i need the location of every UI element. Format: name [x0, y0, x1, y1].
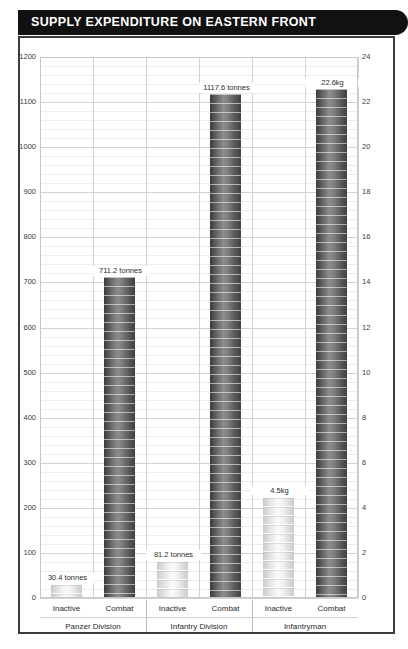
x-group-label: Panzer Division [40, 623, 146, 631]
bar-infantry-division-combat[interactable] [210, 94, 242, 598]
bar-panzer-division-inactive[interactable] [51, 584, 83, 598]
bar-infantryman-combat[interactable] [316, 89, 348, 598]
bar-fill [104, 277, 136, 598]
grid-line-vertical [358, 57, 359, 598]
y-tick-label-right: 6 [362, 459, 392, 467]
y-tick-label-right: 16 [362, 233, 392, 241]
x-tick-label: Combat [93, 605, 146, 613]
x-tick-label: Inactive [146, 605, 199, 613]
chart-figure: SUPPLY EXPENDITURE ON EASTERN FRONT 0100… [0, 0, 408, 649]
y-tick-label-right: 0 [362, 594, 392, 602]
bar-layer [40, 57, 358, 598]
y-tick-label-right: 20 [362, 143, 392, 151]
y-tick-label-left: 600 [2, 324, 36, 332]
bar-value-label: 711.2 tonnes [93, 266, 148, 276]
bar-infantry-division-inactive[interactable] [157, 561, 189, 598]
bar-infantryman-inactive[interactable] [263, 497, 295, 598]
x-group-rule [40, 617, 146, 618]
grid-line-major [40, 598, 358, 599]
y-tick-label-left: 400 [2, 414, 36, 422]
y-tick-label-left: 500 [2, 369, 36, 377]
bar-fill [157, 561, 189, 598]
plot-area [40, 57, 358, 598]
y-tick-label-right: 14 [362, 278, 392, 286]
y-tick-label-right: 8 [362, 414, 392, 422]
y-tick-label-left: 200 [2, 504, 36, 512]
chart-title-bar: SUPPLY EXPENDITURE ON EASTERN FRONT [18, 10, 408, 35]
page-title: SUPPLY EXPENDITURE ON EASTERN FRONT [31, 16, 316, 29]
y-tick-label-right: 12 [362, 324, 392, 332]
bar-value-label: 81.2 tonnes [146, 550, 201, 560]
y-tick-label-right: 4 [362, 504, 392, 512]
y-tick-label-right: 18 [362, 188, 392, 196]
bar-value-label: 30.4 tonnes [40, 573, 95, 583]
x-tick-label: Combat [199, 605, 252, 613]
bar-value-label: 22.6kg [305, 78, 360, 88]
x-tick-label: Combat [305, 605, 358, 613]
y-tick-label-left: 0 [2, 594, 36, 602]
bar-fill [316, 89, 348, 598]
y-tick-label-left: 700 [2, 278, 36, 286]
y-tick-label-left: 100 [2, 549, 36, 557]
x-group-label: Infantryman [252, 623, 358, 631]
bar-fill [210, 94, 242, 598]
x-group-label: Infantry Division [146, 623, 252, 631]
y-tick-label-left: 1100 [2, 98, 36, 106]
bar-value-label: 1117.6 tonnes [199, 83, 254, 93]
y-tick-label-left: 1200 [2, 53, 36, 61]
bar-value-label: 4.5kg [252, 486, 307, 496]
bar-panzer-division-combat[interactable] [104, 277, 136, 598]
y-tick-label-right: 22 [362, 98, 392, 106]
x-group-rule [146, 617, 252, 618]
y-tick-label-left: 300 [2, 459, 36, 467]
y-tick-label-right: 24 [362, 53, 392, 61]
x-tick-label: Inactive [252, 605, 305, 613]
bar-fill [263, 497, 295, 598]
y-tick-label-right: 10 [362, 369, 392, 377]
y-tick-label-left: 1000 [2, 143, 36, 151]
y-tick-label-left: 800 [2, 233, 36, 241]
bar-fill [51, 584, 83, 598]
x-group-rule [252, 617, 358, 618]
x-tick-label: Inactive [40, 605, 93, 613]
y-tick-label-right: 2 [362, 549, 392, 557]
y-tick-label-left: 900 [2, 188, 36, 196]
